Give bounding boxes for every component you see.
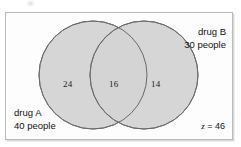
universe-variable: z [201,121,205,131]
region-count-a-only: 24 [63,79,72,89]
set-label-drug-a: drug A 40 people [14,107,56,132]
universe-value: 46 [215,121,225,131]
set-label-drug-b: drug B 30 people [184,26,226,51]
set-label-drug-b-count: 30 people [184,39,226,52]
region-count-intersection: 16 [109,79,118,89]
universe-size-label: z = 46 [201,121,225,131]
set-label-drug-a-count: 40 people [14,120,56,133]
figure-frame: 24 16 14 drug B 30 people drug A 40 peop… [5,12,233,140]
region-count-b-only: 14 [151,79,160,89]
scan-artifact-smudge [26,0,35,7]
set-label-drug-a-name: drug A [14,107,56,120]
set-label-drug-b-name: drug B [184,26,226,39]
universe-equals-sign: = [207,121,212,131]
venn-diagram-figure: 24 16 14 drug B 30 people drug A 40 peop… [0,0,241,147]
circle-drug-b [90,21,198,129]
